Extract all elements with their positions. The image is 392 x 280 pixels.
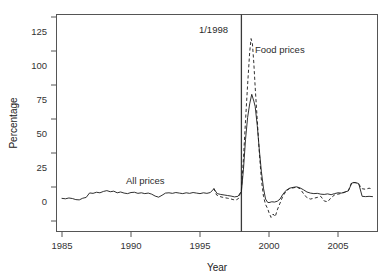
annotation-all-prices: All prices bbox=[126, 175, 165, 186]
series-food-prices bbox=[214, 39, 373, 218]
x-tick-marks bbox=[62, 232, 338, 237]
y-tick-marks bbox=[51, 17, 56, 221]
y-tick-label-50: 50 bbox=[36, 128, 47, 139]
x-axis-label: Year bbox=[207, 262, 228, 273]
plot-frame bbox=[57, 15, 378, 232]
series-all-prices bbox=[62, 94, 373, 202]
y-axis-label: Percentage bbox=[8, 97, 19, 149]
y-tick-label-100: 100 bbox=[31, 60, 47, 71]
line-chart-svg: 0 25 50 75 100 125 Percentage 1985 1990 … bbox=[0, 0, 392, 280]
x-tick-label-1985: 1985 bbox=[51, 240, 72, 251]
x-tick-label-2000: 2000 bbox=[258, 240, 279, 251]
y-tick-label-25: 25 bbox=[36, 162, 47, 173]
chart-figure: 0 25 50 75 100 125 Percentage 1985 1990 … bbox=[0, 0, 392, 280]
y-tick-label-75: 75 bbox=[36, 94, 47, 105]
x-tick-label-1990: 1990 bbox=[120, 240, 141, 251]
x-tick-label-2005: 2005 bbox=[327, 240, 348, 251]
annotation-event-label: 1/1998 bbox=[199, 24, 228, 35]
annotation-food-prices: Food prices bbox=[255, 44, 305, 55]
y-tick-label-125: 125 bbox=[31, 26, 47, 37]
x-tick-label-1995: 1995 bbox=[189, 240, 210, 251]
y-tick-label-0: 0 bbox=[42, 196, 47, 207]
